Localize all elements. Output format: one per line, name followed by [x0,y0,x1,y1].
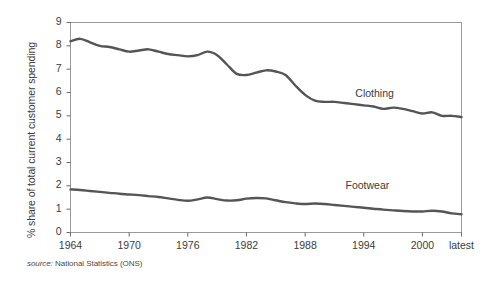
source-prefix: source: [27,259,53,268]
y-axis-tick-label: 1 [46,202,62,214]
y-axis-tick-label: 5 [46,108,62,120]
axes-group [67,23,462,237]
x-axis-tick-label: 1970 [99,239,159,251]
y-axis-tick-label: 6 [46,85,62,97]
y-axis-tick-label: 9 [46,15,62,27]
x-axis-tick-label: 1976 [158,239,218,251]
series-line-footwear [71,189,462,214]
chart-figure: % share of total current customer spendi… [0,0,493,284]
x-axis-tick-label: 1988 [275,239,335,251]
x-axis-tick-label: latest [432,239,492,251]
y-axis-tick-label: 7 [46,62,62,74]
source-note: source: National Statistics (ONS) [27,259,142,268]
y-axis-tick-label: 4 [46,132,62,144]
source-text: National Statistics (ONS) [55,259,142,268]
series-label-footwear: Footwear [346,179,390,191]
y-axis-tick-label: 0 [46,225,62,237]
series-label-clothing: Clothing [355,87,394,99]
y-axis-tick-label: 3 [46,155,62,167]
y-axis-label: % share of total current customer spendi… [21,15,41,265]
y-axis-tick-label: 2 [46,178,62,190]
y-axis-tick-label: 8 [46,38,62,50]
plot-frame [71,23,462,233]
series-line-clothing [71,39,462,117]
series-group [71,39,462,214]
x-axis-tick-label: 1994 [334,239,394,251]
x-axis-tick-label: 1982 [216,239,276,251]
x-axis-tick-label: 1964 [41,239,101,251]
